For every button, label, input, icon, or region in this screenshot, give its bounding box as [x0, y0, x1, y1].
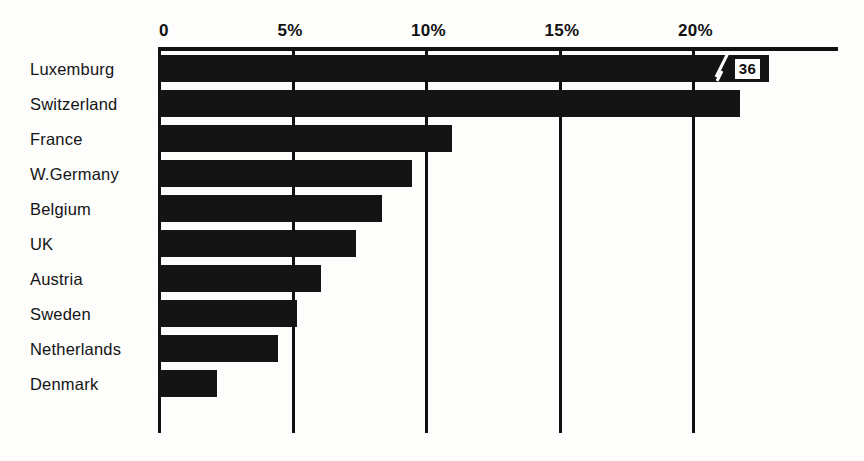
- plot-area: Luxemburg36SwitzerlandFranceW.GermanyBel…: [0, 51, 864, 433]
- x-tick-label-2: 10%: [411, 22, 446, 39]
- bar-row: Switzerland: [0, 86, 864, 121]
- bar-denmark: [158, 370, 217, 397]
- bar-w-germany: [158, 160, 412, 187]
- category-label-france: France: [30, 129, 83, 148]
- bar-switzerland: [158, 90, 740, 117]
- bar-row: Austria: [0, 261, 864, 296]
- bar-row: Belgium: [0, 191, 864, 226]
- bar-row: Sweden: [0, 296, 864, 331]
- bar-chart: 05%10%15%20% Luxemburg36SwitzerlandFranc…: [0, 0, 864, 461]
- x-tick-label-4: 20%: [678, 22, 713, 39]
- bar-austria: [158, 265, 321, 292]
- bar-row: Denmark: [0, 366, 864, 401]
- x-tick-label-1: 5%: [278, 22, 303, 39]
- bar-netherlands: [158, 335, 278, 362]
- category-label-sweden: Sweden: [30, 304, 91, 323]
- category-label-switzerland: Switzerland: [30, 94, 118, 113]
- bar-value-label-luxemburg: 36: [734, 58, 762, 80]
- category-label-belgium: Belgium: [30, 199, 91, 218]
- bar-row: France: [0, 121, 864, 156]
- category-label-luxemburg: Luxemburg: [30, 59, 114, 78]
- bar-france: [158, 125, 452, 152]
- category-label-austria: Austria: [30, 269, 83, 288]
- category-label-netherlands: Netherlands: [30, 339, 121, 358]
- bar-belgium: [158, 195, 382, 222]
- bar-uk: [158, 230, 356, 257]
- bar-sweden: [158, 300, 297, 327]
- bar-row: Netherlands: [0, 331, 864, 366]
- bar-row: UK: [0, 226, 864, 261]
- category-label-uk: UK: [30, 234, 53, 253]
- category-label-w-germany: W.Germany: [30, 164, 119, 183]
- x-tick-label-3: 15%: [545, 22, 580, 39]
- bar-luxemburg: 36: [158, 55, 769, 82]
- x-tick-label-0: 0: [159, 22, 169, 39]
- axis-break-slash-icon: [711, 51, 733, 87]
- category-label-denmark: Denmark: [30, 374, 98, 393]
- bar-row: Luxemburg36: [0, 51, 864, 86]
- bar-row: W.Germany: [0, 156, 864, 191]
